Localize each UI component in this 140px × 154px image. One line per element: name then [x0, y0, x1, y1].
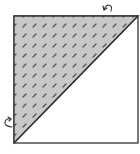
curved-arrow-icon-bottom-left	[5, 117, 12, 127]
diagram-svg	[0, 0, 140, 154]
curved-arrow-icon-top-right	[103, 5, 112, 11]
fold-diagram	[0, 0, 140, 154]
